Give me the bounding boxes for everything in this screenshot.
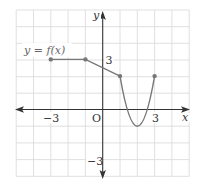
y-axis-label: y — [92, 9, 100, 22]
function-graph: y = f(x) y x O −3 3 3 −3 — [0, 0, 202, 190]
x-tick-label-neg3: −3 — [43, 112, 59, 125]
point-marker — [83, 57, 87, 61]
y-tick-label-3: 3 — [106, 54, 113, 67]
axes — [15, 11, 190, 179]
function-label: y = f(x) — [23, 44, 65, 57]
point-marker — [49, 57, 53, 61]
point-marker — [152, 74, 156, 78]
point-marker — [118, 74, 122, 78]
x-axis-label: x — [182, 111, 189, 124]
y-tick-label-neg3: −3 — [87, 155, 103, 168]
origin-label: O — [92, 112, 101, 125]
x-tick-label-3: 3 — [152, 112, 159, 125]
